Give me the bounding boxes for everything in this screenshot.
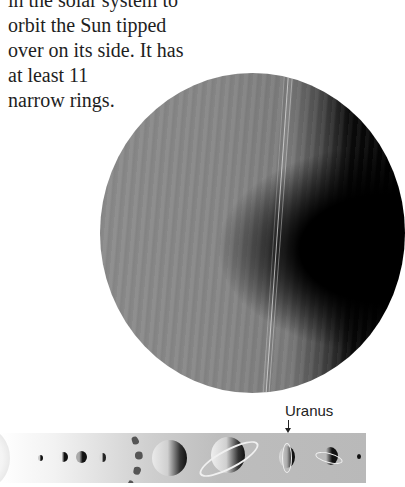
ring-line (265, 73, 289, 393)
down-arrow-icon (288, 420, 289, 431)
paragraph-line: over on its side. It has (8, 38, 208, 63)
solar-system-strip (0, 433, 366, 483)
pluto-icon (357, 454, 361, 459)
mercury-icon (38, 455, 43, 461)
uranus-image (100, 73, 405, 393)
asteroid-belt-icon (80, 433, 143, 483)
jupiter-icon (152, 440, 187, 476)
paragraph-line: orbit the Sun tipped (8, 13, 208, 38)
sun-icon (0, 433, 10, 483)
paragraph-line: in the solar system to (8, 0, 208, 13)
uranus-label: Uranus (285, 402, 333, 419)
paragraph-line: at least 11 (8, 63, 208, 88)
uranus-ring-icon (282, 443, 292, 473)
ring-line (262, 73, 285, 393)
venus-icon (59, 452, 68, 462)
